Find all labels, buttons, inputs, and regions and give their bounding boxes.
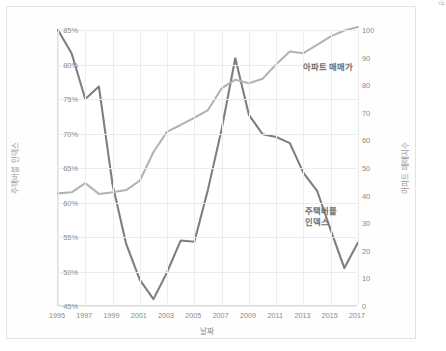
left-axis-tick-label: 60% (63, 198, 78, 207)
gridline-vertical (249, 30, 250, 305)
x-axis-tick-label: 2011 (267, 311, 282, 320)
gridline-horizontal (58, 168, 357, 169)
left-axis-tick-label: 55% (63, 233, 78, 242)
gridline-vertical (167, 30, 168, 305)
x-axis-tick-label: 2005 (185, 311, 201, 320)
x-axis-tick-label: 2009 (240, 311, 256, 320)
left-axis-tick-label: 80% (63, 60, 78, 69)
gridline-horizontal (58, 237, 357, 238)
right-axis-title: 아파트 매매지수 (399, 142, 410, 193)
left-axis-tick-label: 85% (63, 26, 78, 35)
right-axis-tick-label: 60 (362, 136, 370, 145)
gridline-vertical (194, 30, 195, 305)
x-axis-tick-label: 2007 (213, 311, 229, 320)
right-axis-tick-label: 0 (362, 302, 366, 311)
left-axis-tick-label: 70% (63, 129, 78, 138)
x-axis-tick-label: 2017 (349, 311, 365, 320)
gridline-horizontal (58, 203, 357, 204)
right-axis-tick-label: 100 (362, 26, 374, 35)
gridline-horizontal (58, 272, 357, 273)
right-axis-tick-label: 10 (362, 274, 370, 283)
x-axis-tick-label: 2001 (131, 311, 147, 320)
left-axis-tick-label: 65% (63, 164, 78, 173)
gridline-vertical (140, 30, 141, 305)
gridline-horizontal (58, 30, 357, 31)
gridline-vertical (85, 30, 86, 305)
x-axis-tick-label: 2015 (322, 311, 338, 320)
gridline-vertical (276, 30, 277, 305)
gridline-horizontal (58, 99, 357, 100)
x-axis-tick-label: 1997 (76, 311, 92, 320)
right-axis-tick-label: 70 (362, 108, 370, 117)
right-axis-tick-label: 50 (362, 164, 370, 173)
right-axis-tick-label: 40 (362, 191, 370, 200)
series-annotation-housing-bubble: 주택버블 인덱스 (305, 206, 337, 229)
x-axis-tick-label: 2013 (294, 311, 310, 320)
gridline-vertical (358, 30, 359, 305)
gridline-vertical (58, 30, 59, 305)
right-axis-tick-label: 80 (362, 81, 370, 90)
source-note: 데이터 출처 : 한국감정원, KB부동산 (438, 0, 446, 6)
gridline-horizontal (58, 306, 357, 307)
left-axis-tick-label: 75% (63, 95, 78, 104)
x-axis-tick-label: 2003 (158, 311, 174, 320)
x-axis-tick-label: 1999 (104, 311, 120, 320)
right-axis-tick-label: 30 (362, 219, 370, 228)
x-axis-tick-label: 1995 (49, 311, 65, 320)
left-axis-tick-label: 45% (63, 302, 78, 311)
left-axis-title: 주택버블 인덱스 (9, 142, 20, 193)
left-axis-tick-label: 50% (63, 267, 78, 276)
right-axis-tick-label: 90 (362, 53, 370, 62)
gridline-horizontal (58, 134, 357, 135)
x-axis-title: 날짜 (57, 325, 357, 336)
gridline-vertical (113, 30, 114, 305)
series-annotation-apartment-price: 아파트 매매가 (303, 62, 353, 73)
right-axis-tick-label: 20 (362, 246, 370, 255)
gridline-vertical (222, 30, 223, 305)
